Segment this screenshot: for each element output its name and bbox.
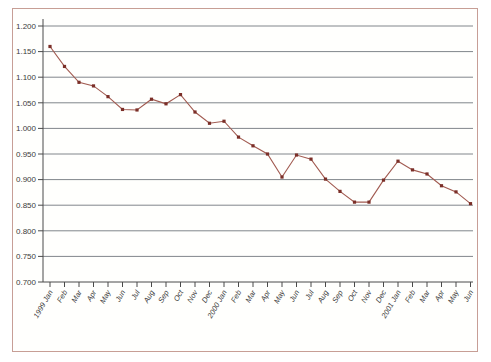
data-point-marker: [266, 152, 269, 155]
x-axis-label: Jun: [287, 289, 301, 305]
data-point-marker: [338, 190, 341, 193]
y-axis-label: 0.950: [16, 150, 37, 159]
data-point-marker: [63, 65, 66, 68]
y-axis-label: 1.200: [16, 22, 37, 31]
x-axis-label: Feb: [229, 289, 243, 305]
y-axis-label: 0.900: [16, 175, 37, 184]
x-axis-label: Jul: [303, 288, 316, 302]
x-axis-label: Jun: [461, 289, 475, 305]
x-axis-label: Apr: [432, 288, 446, 304]
data-point-marker: [454, 190, 457, 193]
data-point-marker: [48, 45, 51, 48]
data-point-marker: [353, 201, 356, 204]
data-point-marker: [367, 201, 370, 204]
x-axis-label: Nov: [359, 287, 374, 304]
scanned-chart-page: 1.2001.1501.1001.0501.0000.9500.9000.850…: [0, 0, 491, 362]
x-axis-label: Oct: [346, 288, 360, 303]
y-axis-label: 1.100: [16, 73, 37, 82]
x-axis-label: Aug: [141, 288, 156, 306]
x-axis-label: Mar: [69, 288, 84, 304]
y-axis-label: 1.050: [16, 99, 37, 108]
x-axis-label: Oct: [172, 288, 186, 303]
y-axis-label: 0.750: [16, 252, 37, 261]
x-axis-label: May: [446, 287, 462, 305]
data-point-marker: [193, 110, 196, 113]
data-point-marker: [106, 95, 109, 98]
x-axis-label: Sep: [156, 289, 170, 305]
data-point-marker: [425, 172, 428, 175]
data-point-marker: [150, 98, 153, 101]
x-axis-label: Apr: [258, 288, 272, 304]
data-point-marker: [222, 120, 225, 123]
x-axis-label: Sep: [330, 289, 344, 305]
y-axis-label: 0.700: [16, 278, 37, 287]
data-point-marker: [179, 93, 182, 96]
data-point-marker: [309, 158, 312, 161]
data-point-marker: [295, 153, 298, 156]
data-point-marker: [469, 202, 472, 205]
x-axis-label: Mar: [417, 288, 432, 304]
chart-frame: 1.2001.1501.1001.0501.0000.9500.9000.850…: [12, 8, 478, 352]
y-axis-label: 1.000: [16, 124, 37, 133]
x-axis-label: 1999 Jan: [32, 289, 55, 320]
data-point-marker: [324, 177, 327, 180]
data-point-marker: [251, 144, 254, 147]
data-point-marker: [164, 102, 167, 105]
x-axis-label: Nov: [185, 287, 200, 304]
x-axis-label: Feb: [403, 289, 417, 305]
plot-svg: 1.2001.1501.1001.0501.0000.9500.9000.850…: [13, 9, 477, 351]
x-axis-label: Mar: [243, 288, 258, 304]
x-axis-label: May: [272, 287, 288, 305]
data-point-marker: [121, 108, 124, 111]
data-point-marker: [382, 179, 385, 182]
data-point-marker: [280, 175, 283, 178]
y-axis-label: 1.150: [16, 47, 37, 56]
data-point-marker: [396, 160, 399, 163]
data-point-marker: [135, 108, 138, 111]
y-axis-label: 0.800: [16, 227, 37, 236]
data-point-marker: [237, 136, 240, 139]
data-point-marker: [411, 168, 414, 171]
data-point-marker: [92, 84, 95, 87]
x-axis-label: May: [98, 287, 114, 305]
data-point-marker: [77, 81, 80, 84]
x-axis-label: Jul: [129, 288, 142, 302]
x-axis-label: Feb: [55, 289, 69, 305]
x-axis-label: Aug: [315, 288, 330, 306]
x-axis-label: Apr: [84, 288, 98, 304]
x-axis-label: Jun: [113, 289, 127, 305]
data-point-marker: [440, 184, 443, 187]
y-axis-label: 0.850: [16, 201, 37, 210]
data-point-marker: [208, 122, 211, 125]
